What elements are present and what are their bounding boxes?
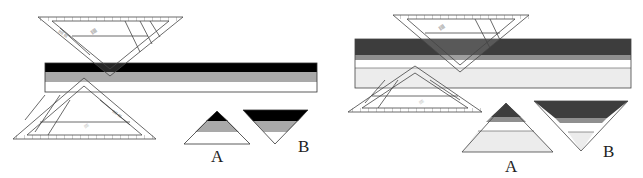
right-label-a: A xyxy=(505,157,517,177)
left-piece-a xyxy=(184,111,250,144)
left-label-b: B xyxy=(298,137,309,157)
diagram-canvas: |||||| IIII III |||||| IIII III xyxy=(0,0,643,178)
left-panel: |||||| IIII III |||||| IIII III xyxy=(13,17,317,144)
right-label-b: B xyxy=(603,142,614,162)
left-label-a: A xyxy=(211,147,223,167)
right-panel: |||||| |||||| xyxy=(348,15,631,152)
